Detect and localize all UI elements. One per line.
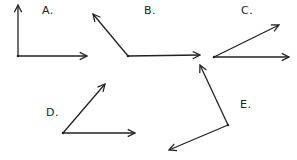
angle-e-ray-2: [169, 125, 228, 150]
angles-group: [17, 5, 289, 150]
angle-label-d: D.: [46, 106, 59, 119]
angle-d-vertex: [62, 132, 65, 135]
angle-label-a: A.: [42, 4, 54, 17]
angle-e-vertex: [227, 124, 230, 127]
angle-e-ray-1: [200, 65, 228, 125]
angle-label-c: C.: [241, 4, 253, 17]
angle-b-ray-2: [128, 55, 200, 56]
angle-d-ray-1: [63, 84, 105, 133]
angle-a-vertex: [17, 55, 20, 58]
angle-b-vertex: [127, 55, 130, 58]
angle-c-ray-1: [214, 25, 279, 57]
angles-diagram: [0, 0, 297, 160]
angle-label-e: E.: [240, 98, 251, 111]
angle-b-ray-1: [93, 14, 128, 56]
angle-label-b: B.: [144, 4, 156, 17]
angle-c-vertex: [213, 56, 216, 59]
